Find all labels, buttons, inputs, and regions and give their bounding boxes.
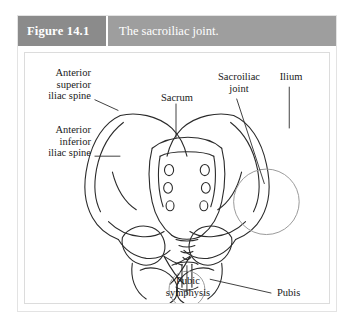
sacroiliac-joint-highlight-circle <box>234 169 300 234</box>
label-pubic-symphysis: Pubic symphysis <box>152 275 224 298</box>
figure-container: Figure 14.1 The sacroiliac joint. <box>17 15 337 312</box>
label-anterior-inferior-iliac-spine: Anterior inferior iliac spine <box>31 124 91 159</box>
leader-line-sacroiliac-joint <box>237 99 265 184</box>
label-anterior-superior-iliac-spine: Anterior superior iliac spine <box>31 67 91 102</box>
figure-caption-block: The sacroiliac joint. <box>106 16 336 46</box>
label-pubis: Pubis <box>277 287 325 299</box>
label-sacrum: Sacrum <box>148 92 206 104</box>
label-ilium: Ilium <box>268 71 314 83</box>
figure-number-label: Figure 14.1 <box>27 24 89 39</box>
figure-number-block: Figure 14.1 <box>18 16 106 46</box>
label-sacroiliac-joint: Sacroiliac joint <box>210 71 268 94</box>
figure-header-bar: Figure 14.1 The sacroiliac joint. <box>18 16 336 46</box>
figure-caption-text: The sacroiliac joint. <box>119 24 219 39</box>
figure-image-panel: Anterior superior iliac spine Anterior i… <box>24 52 330 304</box>
leader-line-asis <box>95 100 119 111</box>
